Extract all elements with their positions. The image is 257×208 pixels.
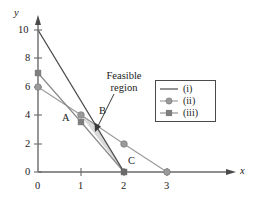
y-tick-label-10: 10: [18, 25, 29, 36]
feasible-region-annotation: Feasible region: [98, 70, 150, 94]
y-axis-arrowhead: [35, 15, 41, 25]
series-ii-line: [38, 87, 167, 172]
x-tick-label-1: 1: [78, 181, 83, 192]
series-ii-marker-3: [164, 169, 171, 176]
series-ii-marker-1: [78, 112, 85, 119]
series-ii-marker-0: [35, 84, 42, 91]
x-tick-label-3: 3: [164, 181, 169, 192]
x-tick-label-2: 2: [121, 181, 126, 192]
feasible-region-shading: [81, 115, 124, 172]
series-iii-marker-1: [78, 119, 84, 125]
legend-sample-ii-marker: [166, 98, 172, 104]
series-ii-marker-2: [121, 141, 128, 148]
legend-label-ii: (ii): [183, 96, 195, 106]
legend-label-i: (i): [183, 84, 192, 94]
vertex-label-c: C: [128, 156, 135, 167]
series-iii-marker-2: [121, 169, 127, 175]
x-axis-label: x: [240, 166, 245, 177]
feasible-region-annotation-line2: region: [98, 82, 150, 94]
x-axis-arrowhead: [226, 169, 236, 175]
chart-plot-area: [0, 0, 257, 208]
y-tick-label-2: 2: [25, 139, 30, 150]
y-tick-label-6: 6: [25, 82, 30, 93]
vertex-label-b: B: [99, 106, 106, 117]
y-axis-label: y: [14, 8, 19, 19]
legend-sample-iii-marker: [166, 110, 172, 116]
y-tick-label-4: 4: [25, 110, 30, 121]
legend-label-iii: (iii): [183, 108, 198, 118]
series-i-line: [38, 30, 124, 172]
series-iii-marker-0: [35, 70, 41, 76]
feasible-region-annotation-line1: Feasible: [98, 70, 150, 82]
y-tick-label-0: 0: [25, 167, 30, 178]
y-tick-label-8: 8: [25, 53, 30, 64]
x-tick-label-0: 0: [35, 181, 40, 192]
vertex-label-a: A: [62, 113, 70, 124]
feasible-region-chart: y x 10 8 6 4 2 0 0 1 2 3 A B C Feasible …: [0, 0, 257, 208]
